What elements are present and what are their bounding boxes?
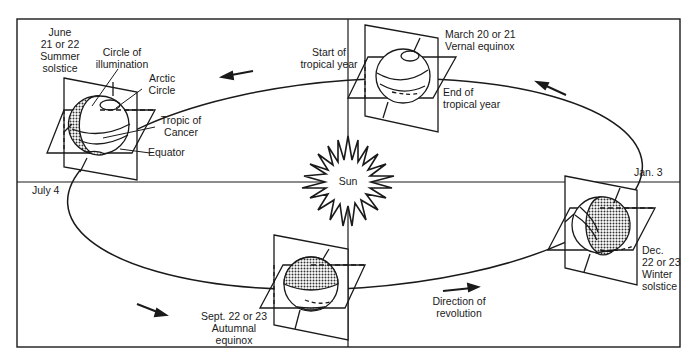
winter-solstice-event: Winter [642,268,681,280]
autumnal-equinox-label: Sept. 22 or 23 Autumnal equinox [194,310,274,346]
arctic-circle-line2: Circle [142,84,182,96]
vernal-equinox-date: March 20 or 21 [445,28,516,40]
vernal-equinox-event: Vernal equinox [445,40,516,52]
end-tropical-year-line1: End of [443,86,500,98]
circle-of-illumination-line1: Circle of [90,46,154,58]
tropic-of-cancer-line2: Cancer [156,126,206,138]
arctic-circle-label: Arctic Circle [142,72,182,96]
tropic-of-cancer-line1: Tropic of [156,114,206,126]
summer-solstice-label: June 21 or 22 Summer solstice [34,26,86,74]
direction-line2: revolution [424,307,494,319]
winter-solstice-date: Dec. [642,244,681,256]
earth-winter-solstice [548,176,655,285]
summer-solstice-date2: 21 or 22 [34,38,86,50]
autumnal-equinox-event: Autumnal [194,322,274,334]
vernal-equinox-label: March 20 or 21 Vernal equinox [445,28,516,52]
summer-solstice-event: Summer [34,50,86,62]
start-tropical-year-line1: Start of [294,46,364,58]
perihelion-label: Jan. 3 [634,166,663,178]
circle-of-illumination-label: Circle of illumination [90,46,154,70]
autumnal-equinox-date: Sept. 22 or 23 [194,310,274,322]
sun-label: Sun [328,175,368,187]
winter-solstice-event2: solstice [642,280,681,292]
direction-line1: Direction of [424,295,494,307]
summer-solstice-event2: solstice [34,62,86,74]
winter-solstice-date2: 22 or 23 [642,256,681,268]
autumnal-equinox-event2: equinox [194,334,274,346]
arctic-circle-line1: Arctic [142,72,182,84]
end-tropical-year-line2: tropical year [443,98,500,110]
direction-of-revolution-label: Direction of revolution [424,295,494,319]
start-tropical-year-label: Start of tropical year [294,46,364,70]
winter-solstice-label: Dec. 22 or 23 Winter solstice [642,244,681,292]
equator-label: Equator [148,146,185,158]
start-tropical-year-line2: tropical year [294,58,364,70]
circle-of-illumination-line2: illumination [90,58,154,70]
aphelion-label: July 4 [32,184,59,196]
summer-solstice-date: June [34,26,86,38]
earth-autumnal-equinox [260,235,365,340]
end-tropical-year-label: End of tropical year [443,86,500,110]
tropic-of-cancer-label: Tropic of Cancer [156,114,206,138]
earth-vernal-equinox [348,25,456,132]
